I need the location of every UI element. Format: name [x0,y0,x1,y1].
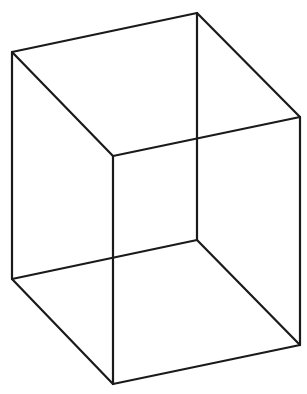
cube-edge-top-front-to-top-left [12,52,113,156]
cube-edge-bottom-right-to-bottom-front [113,345,300,384]
cube-edge-bottom-front-to-bottom-left [12,279,113,384]
cube-edge-top-right-to-top-front [113,117,300,156]
cube-edge-bottom-left-to-bottom-back [12,240,197,279]
cube-wireframe [0,0,307,394]
cube-edge-top-back-to-top-right [197,13,300,117]
cube-edge-top-left-to-top-back [12,13,197,52]
cube-figure: Wireframe cube (Necker cube) [0,0,307,394]
cube-edge-bottom-back-to-bottom-right [197,240,300,345]
